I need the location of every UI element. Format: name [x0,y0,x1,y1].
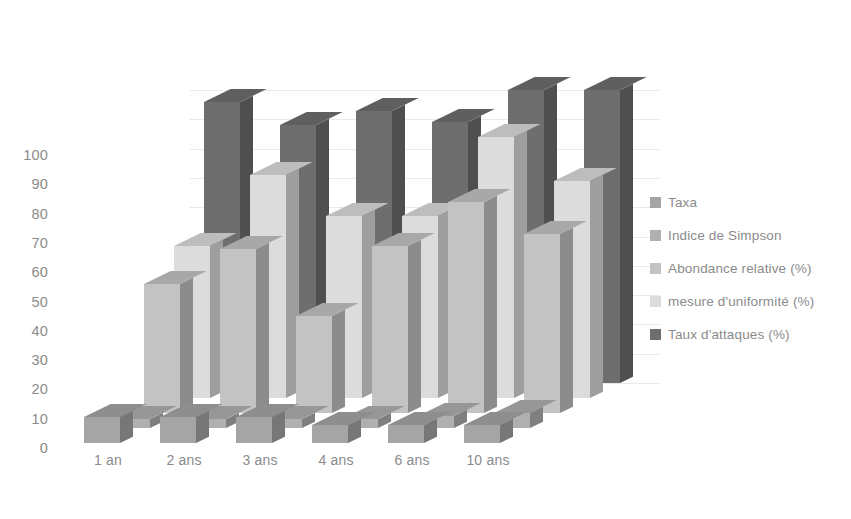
bar-face [448,202,484,413]
bar-side [560,228,573,413]
bar-side [408,240,421,413]
bar-taxa-3-ans [236,417,272,443]
y-axis-label: 60 [31,264,48,280]
bar-side [590,175,603,398]
legend-label: Taxa [668,195,697,210]
x-axis-label: 3 ans [242,452,277,468]
bar-face [144,284,180,413]
bar-abondance-relative-3-ans [296,316,332,413]
bar-face [388,425,424,443]
legend-item[interactable]: mesure d'uniformité (%) [650,285,850,318]
chart-legend: TaxaIndice de SimpsonAbondance relative … [650,186,850,351]
bar-taxa-2-ans [160,417,196,443]
chart-container: 1009080706050403020100 1 an2 ans3 ans4 a… [0,0,851,519]
y-axis-label: 40 [31,323,48,339]
bar-face [524,234,560,413]
bar-top [508,77,571,90]
bar-face [160,417,196,443]
bar-face [220,249,256,413]
bar-face [236,417,272,443]
legend-swatch-icon [650,263,661,274]
bar-side [180,278,193,413]
legend-item[interactable]: Abondance relative (%) [650,252,850,285]
y-axis-label: 50 [31,294,48,310]
bar-abondance-relative-4-ans [372,246,408,413]
legend-label: mesure d'uniformité (%) [668,294,814,309]
legend-swatch-icon [650,329,661,340]
y-axis-label: 10 [31,411,48,427]
y-axis-label: 90 [31,176,48,192]
plot-area [58,38,618,448]
bar-top [432,109,495,122]
x-axis-label: 1 an [94,452,122,468]
bar-face [464,425,500,443]
legend-item[interactable]: Taxa [650,186,850,219]
bar-face [296,316,332,413]
bar-taxa-4-ans [312,425,348,443]
legend-label: Taux d'attaques (%) [668,327,790,342]
y-axis-label: 100 [23,147,48,163]
bar-face [372,246,408,413]
bar-top [280,112,343,125]
bar-taxa-10-ans [464,425,500,443]
bar-side [484,196,497,413]
bar-abondance-relative-6-ans [448,202,484,413]
bar-abondance-relative-1-an [144,284,180,413]
bar-face [312,425,348,443]
bar-abondance-relative-2-ans [220,249,256,413]
bar-side [256,243,269,413]
x-axis-label: 2 ans [166,452,201,468]
y-axis-label: 20 [31,381,48,397]
legend-label: Abondance relative (%) [668,261,812,276]
y-axis-label: 30 [31,352,48,368]
legend-item[interactable]: Taux d'attaques (%) [650,318,850,351]
legend-swatch-icon [650,197,661,208]
x-axis: 1 an2 ans3 ans4 ans6 ans10 ans [0,452,640,478]
bar-side [620,84,633,383]
legend-label: Indice de Simpson [668,228,782,243]
bar-top [356,98,419,111]
y-axis-label: 80 [31,206,48,222]
bar-abondance-relative-10-ans [524,234,560,413]
legend-swatch-icon [650,296,661,307]
x-axis-label: 10 ans [466,452,509,468]
y-axis-label: 70 [31,235,48,251]
bar-taxa-1-an [84,417,120,443]
bar-top [584,77,647,90]
x-axis-label: 4 ans [318,452,353,468]
x-axis-label: 6 ans [394,452,429,468]
bar-taxa-6-ans [388,425,424,443]
bar-face [84,417,120,443]
y-axis: 1009080706050403020100 [0,138,54,458]
legend-item[interactable]: Indice de Simpson [650,219,850,252]
bar-top [204,89,267,102]
bar-side [332,310,345,413]
legend-swatch-icon [650,230,661,241]
